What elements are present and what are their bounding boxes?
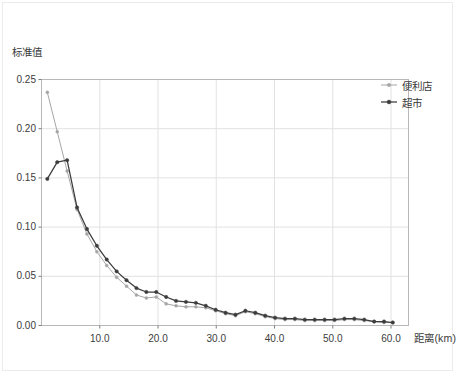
- y-tick-label: 0.20: [4, 123, 36, 134]
- data-point: [145, 290, 148, 293]
- data-point: [56, 160, 59, 163]
- series-line-2: [47, 160, 392, 322]
- data-point: [75, 206, 78, 209]
- data-point: [65, 158, 68, 161]
- data-point: [204, 304, 207, 307]
- x-tick-label: 10.0: [80, 333, 120, 344]
- data-point: [95, 244, 98, 247]
- data-point: [164, 295, 167, 298]
- data-point: [46, 177, 49, 180]
- data-point: [66, 170, 69, 173]
- data-point: [135, 294, 138, 297]
- data-point: [85, 232, 88, 235]
- data-point: [46, 91, 49, 94]
- data-point: [194, 301, 197, 304]
- x-tick-label: 40.0: [255, 333, 295, 344]
- data-point: [382, 320, 385, 323]
- x-tick-label: 50.0: [313, 333, 353, 344]
- data-point: [391, 321, 394, 324]
- y-tick-label: 0.10: [4, 221, 36, 232]
- data-point: [125, 285, 128, 288]
- data-point: [105, 264, 108, 267]
- data-point: [323, 318, 326, 321]
- data-point: [353, 317, 356, 320]
- y-tick-label: 0.00: [4, 320, 36, 331]
- data-point: [234, 313, 237, 316]
- data-point: [184, 305, 187, 308]
- data-point: [125, 279, 128, 282]
- data-point: [184, 300, 187, 303]
- plot-area: [0, 0, 456, 374]
- data-point: [254, 311, 257, 314]
- legend-marker-2: [387, 100, 391, 104]
- y-tick-label: 0.05: [4, 270, 36, 281]
- plot-frame: [42, 80, 409, 326]
- x-tick-label: 60.0: [371, 333, 411, 344]
- y-tick-label: 0.25: [4, 74, 36, 85]
- data-point: [145, 296, 148, 299]
- data-point: [363, 318, 366, 321]
- x-tick-label: 20.0: [138, 333, 178, 344]
- data-point: [313, 318, 316, 321]
- data-point: [273, 316, 276, 319]
- data-point: [105, 258, 108, 261]
- data-point: [194, 305, 197, 308]
- data-point: [224, 311, 227, 314]
- data-point: [264, 314, 267, 317]
- series-line-1: [47, 92, 392, 322]
- data-point: [293, 317, 296, 320]
- data-point: [155, 290, 158, 293]
- data-point: [372, 320, 375, 323]
- data-point: [244, 309, 247, 312]
- data-point: [343, 317, 346, 320]
- data-point: [85, 227, 88, 230]
- data-point: [135, 286, 138, 289]
- data-point: [165, 302, 168, 305]
- data-point: [95, 250, 98, 253]
- data-point: [115, 276, 118, 279]
- data-point: [115, 270, 118, 273]
- data-point: [56, 130, 59, 133]
- data-point: [155, 295, 158, 298]
- data-point: [303, 318, 306, 321]
- data-point: [283, 317, 286, 320]
- data-point: [214, 308, 217, 311]
- legend-label-2: 超市: [402, 95, 422, 110]
- data-point: [333, 318, 336, 321]
- legend-label-1: 便利店: [402, 78, 432, 93]
- chart-figure: 标准值 距离(km) 0.000.050.100.150.200.2510.02…: [0, 0, 456, 374]
- data-point: [174, 299, 177, 302]
- x-tick-label: 30.0: [196, 333, 236, 344]
- data-point: [175, 304, 178, 307]
- legend-marker-1: [387, 83, 390, 86]
- y-tick-label: 0.15: [4, 172, 36, 183]
